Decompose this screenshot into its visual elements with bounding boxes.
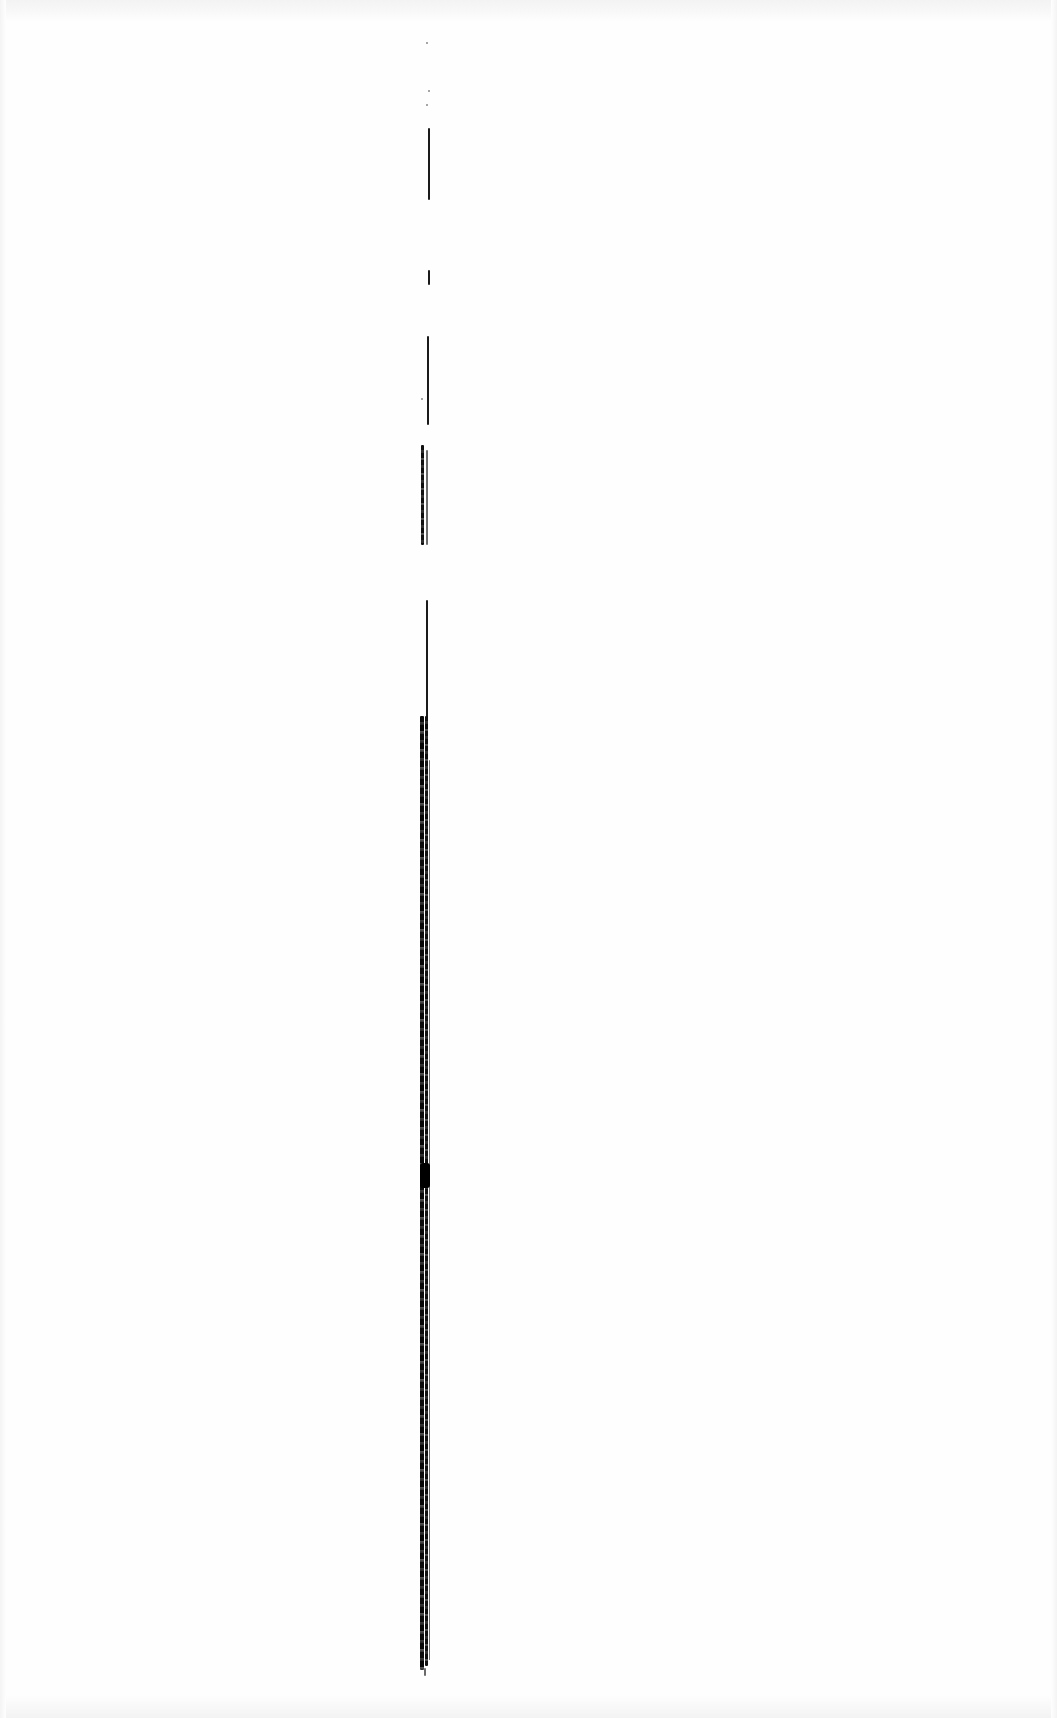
gutter-segment <box>425 716 428 1666</box>
gutter-segment <box>426 450 428 545</box>
ink-blob <box>420 1163 430 1188</box>
gutter-segment <box>421 445 424 545</box>
scan-speck <box>426 42 428 44</box>
scan-speck <box>426 104 428 106</box>
gutter-line <box>0 0 1057 1718</box>
gutter-segment <box>428 270 430 285</box>
scanned-page <box>0 0 1057 1718</box>
gutter-segment <box>420 716 424 1670</box>
scan-speck <box>428 90 430 92</box>
gutter-segment <box>427 336 429 425</box>
gutter-segment <box>428 128 430 200</box>
gutter-segment <box>426 600 428 720</box>
scan-speck <box>421 398 423 400</box>
gutter-segment <box>424 1668 426 1676</box>
gutter-segment <box>429 760 430 1660</box>
